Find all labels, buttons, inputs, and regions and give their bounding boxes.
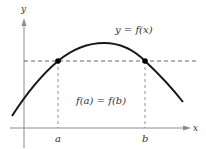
x-axis-label: x: [193, 123, 198, 133]
y-axis-arrow-icon: [22, 18, 27, 26]
point-b: [142, 58, 148, 64]
curve-label: y = f(x): [114, 24, 153, 35]
x-axis-arrow-icon: [183, 126, 191, 131]
a-tick-label: a: [55, 133, 61, 144]
rolle-theorem-diagram: y x a b y = f(x) f(a) = f(b): [0, 0, 206, 149]
y-axis-label: y: [20, 4, 27, 14]
y-axis: y: [20, 4, 27, 148]
equality-label: f(a) = f(b): [75, 95, 126, 106]
x-axis: x: [10, 123, 198, 133]
point-a: [55, 58, 61, 64]
b-tick-label: b: [142, 133, 148, 144]
